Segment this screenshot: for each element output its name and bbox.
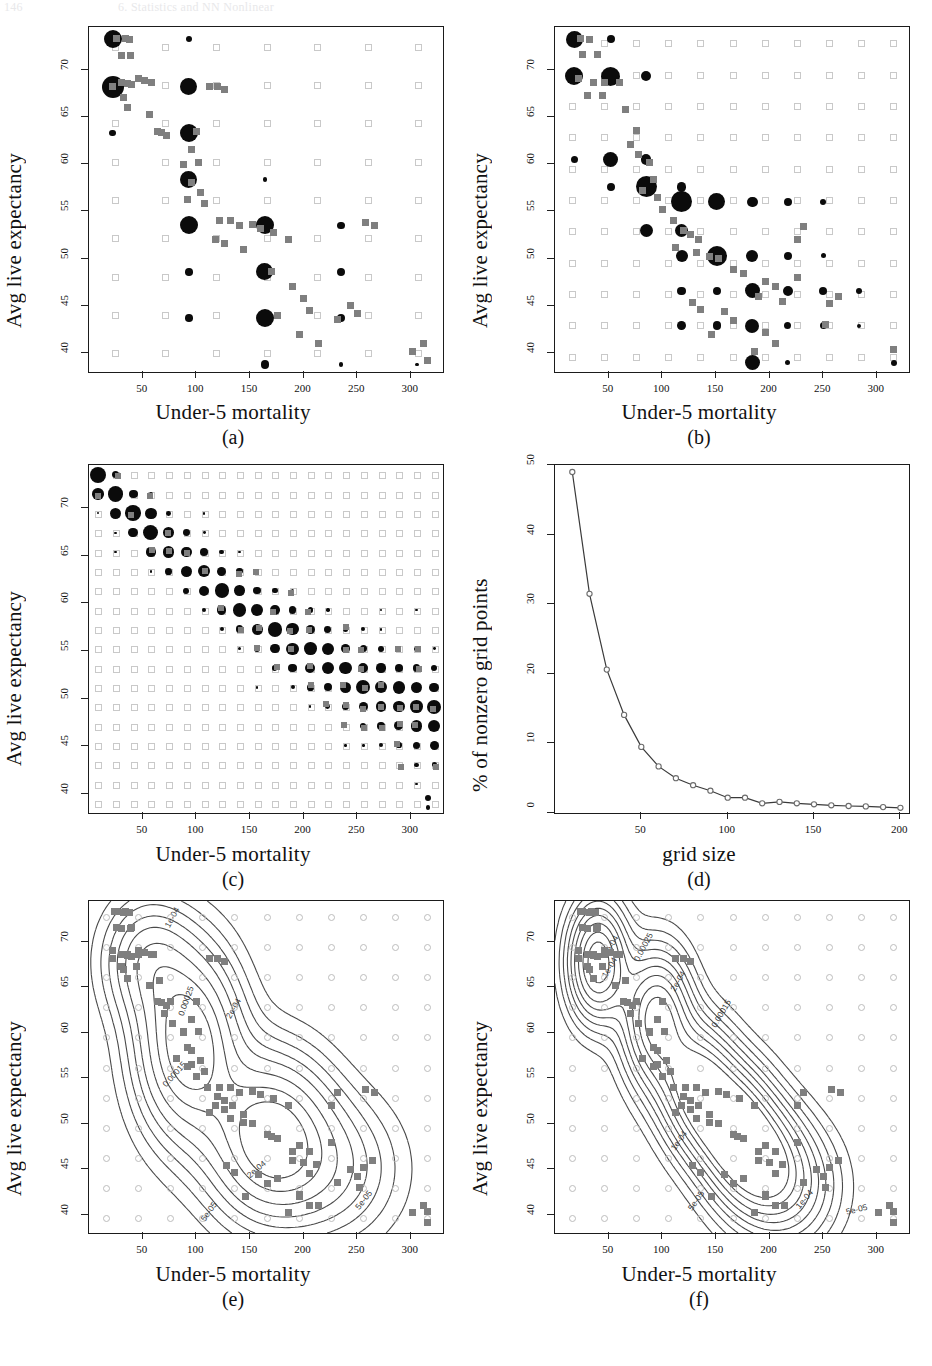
observation-marker: [702, 1089, 709, 1096]
x-tick-mark: [303, 371, 304, 378]
lattice-node: [794, 1004, 801, 1011]
grid-cell-count: [185, 314, 193, 322]
lattice-node: [264, 944, 271, 951]
grid-cell-empty: [762, 40, 769, 47]
x-tick-label: 100: [718, 823, 735, 835]
grid-cell-empty: [202, 801, 209, 808]
grid-cell-empty: [890, 40, 897, 47]
grid-cell-empty: [255, 801, 262, 808]
observation-marker: [212, 236, 219, 243]
grid-cell-empty: [95, 782, 102, 789]
y-tick-label: 70: [58, 59, 78, 70]
grid-cell-empty: [361, 608, 368, 615]
grid-cell-empty: [325, 724, 332, 731]
observation-marker: [264, 1131, 271, 1138]
y-tick-mark: [547, 1168, 554, 1169]
grid-cell-empty: [343, 588, 350, 595]
observation-marker: [274, 664, 280, 670]
lattice-node: [858, 914, 865, 921]
x-tick-label: 100: [653, 1243, 670, 1255]
grid-cell-empty: [213, 120, 220, 127]
observation-marker: [635, 151, 642, 158]
lattice-node: [296, 914, 303, 921]
observation-marker: [413, 704, 419, 710]
grid-cell-empty: [113, 666, 120, 673]
lattice-node: [762, 1065, 769, 1072]
grid-cell-empty: [569, 260, 576, 267]
lattice-node: [296, 1034, 303, 1041]
lattice-node: [762, 974, 769, 981]
grid-cell-empty: [237, 530, 244, 537]
observation-marker: [593, 925, 600, 932]
grid-cell-empty: [890, 291, 897, 298]
observation-marker: [347, 1166, 354, 1173]
grid-cell-empty: [414, 492, 421, 499]
grid-cell-empty: [633, 322, 640, 329]
x-tick-mark: [822, 371, 823, 378]
y-tick-label: 65: [524, 976, 544, 987]
grid-cell-empty: [601, 166, 608, 173]
lattice-node: [730, 1155, 737, 1162]
x-tick-mark: [813, 812, 814, 819]
grid-cell-empty: [219, 724, 226, 731]
grid-cell-empty: [379, 782, 386, 789]
grid-cell-empty: [325, 762, 332, 769]
observation-marker: [193, 128, 200, 135]
grid-cell-empty: [665, 134, 672, 141]
lattice-node: [167, 1125, 174, 1132]
panel-caption: (c): [0, 868, 466, 891]
observation-marker: [828, 1086, 835, 1093]
observation-marker: [693, 249, 700, 256]
grid-cell-empty: [730, 228, 737, 235]
grid-cell-empty: [237, 492, 244, 499]
observation-marker: [409, 348, 416, 355]
grid-cell-empty: [379, 569, 386, 576]
grid-cell-empty: [166, 704, 173, 711]
x-tick-mark: [356, 371, 357, 378]
observation-marker: [371, 1089, 378, 1096]
y-tick-mark: [81, 1123, 88, 1124]
lattice-node: [103, 1215, 110, 1222]
lattice-node: [167, 1095, 174, 1102]
observation-marker: [715, 1088, 722, 1095]
lattice-node: [569, 1155, 576, 1162]
grid-cell-empty: [308, 762, 315, 769]
grid-cell-empty: [148, 472, 155, 479]
grid-cell-empty: [665, 228, 672, 235]
observation-marker: [663, 1057, 670, 1064]
grid-cell-empty: [314, 197, 321, 204]
lattice-node: [762, 1125, 769, 1132]
grid-cell-empty: [95, 569, 102, 576]
lattice-node: [167, 974, 174, 981]
lattice-node: [328, 1004, 335, 1011]
lattice-node: [569, 1034, 576, 1041]
grid-cell-empty: [379, 511, 386, 518]
grid-cell-empty: [131, 782, 138, 789]
observation-marker: [173, 1055, 180, 1062]
observation-marker: [128, 81, 135, 88]
y-tick-label: 45: [524, 295, 544, 306]
x-tick-label: 200: [760, 382, 777, 394]
grid-cell-empty: [255, 704, 262, 711]
grid-cell-empty: [219, 492, 226, 499]
observation-marker: [343, 647, 349, 653]
lattice-node: [103, 1185, 110, 1192]
y-tick-label: 45: [524, 1158, 544, 1169]
observation-marker: [216, 1084, 223, 1091]
observation-marker: [740, 1135, 747, 1142]
observation-marker: [781, 1202, 788, 1209]
y-tick-mark: [547, 1077, 554, 1078]
observation-marker: [307, 663, 313, 669]
grid-cell-count: [268, 622, 282, 636]
lattice-node: [103, 1095, 110, 1102]
observation-marker: [755, 1148, 762, 1155]
x-tick-label: 150: [241, 1243, 258, 1255]
grid-cell-empty: [219, 743, 226, 750]
grid-cell-empty: [762, 291, 769, 298]
grid-cell-empty: [633, 40, 640, 47]
grid-cell-empty: [308, 569, 315, 576]
observation-marker: [794, 1139, 801, 1146]
y-tick-label: 45: [58, 295, 78, 306]
lattice-node: [392, 1065, 399, 1072]
observation-marker: [430, 706, 436, 712]
